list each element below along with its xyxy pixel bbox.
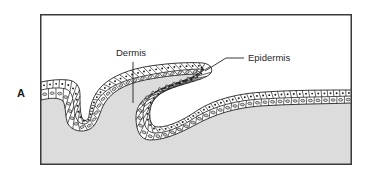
epidermal-fold-diagram: A Dermis Epidermis <box>0 0 369 173</box>
panel-label: A <box>17 87 25 99</box>
diagram-canvas <box>0 0 369 173</box>
dermis-callout-label: Dermis <box>116 48 146 58</box>
epidermis-callout-label: Epidermis <box>248 53 290 63</box>
